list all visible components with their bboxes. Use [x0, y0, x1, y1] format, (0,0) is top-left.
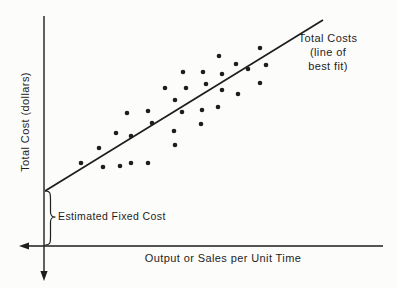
fixed-cost-label: Estimated Fixed Cost [58, 210, 166, 222]
data-point [220, 72, 225, 77]
data-point [181, 70, 186, 75]
data-point [199, 122, 204, 127]
data-point [173, 98, 178, 103]
data-point [258, 46, 263, 51]
fit-line-label-line2: (line of [299, 45, 358, 59]
scatter-figure: Total Cost (dollars) Output or Sales per… [0, 0, 397, 288]
data-point [236, 92, 241, 97]
data-point [258, 81, 263, 86]
x-axis-left-arrow-icon [19, 242, 29, 249]
data-point [146, 109, 151, 114]
data-point [184, 86, 189, 91]
data-point [79, 161, 84, 166]
data-point [246, 67, 251, 72]
y-axis-down-arrow-icon [40, 271, 47, 281]
data-point [172, 129, 177, 134]
fit-line-label: Total Costs (line of best fit) [299, 31, 358, 73]
data-point [129, 134, 134, 139]
data-point [216, 105, 221, 110]
data-point [125, 111, 130, 116]
fit-line-label-line3: best fit) [299, 59, 358, 73]
data-point [200, 108, 205, 113]
y-axis-label: Total Cost (dollars) [19, 72, 31, 172]
data-point [118, 164, 123, 169]
data-point [217, 54, 222, 59]
fixed-cost-brace [46, 191, 56, 245]
data-point [204, 82, 209, 87]
data-point [101, 165, 106, 170]
data-point [264, 63, 269, 68]
data-point [163, 86, 168, 91]
fit-line-label-line1: Total Costs [299, 31, 358, 45]
x-axis-label: Output or Sales per Unit Time [145, 252, 302, 264]
best-fit-line [45, 20, 323, 191]
data-point [173, 143, 178, 148]
data-point [146, 161, 151, 166]
data-point [234, 62, 239, 67]
data-point [220, 88, 225, 93]
data-point [114, 131, 119, 136]
data-point [180, 110, 185, 115]
data-point [150, 121, 155, 126]
data-point [97, 146, 102, 151]
data-point [129, 161, 134, 166]
data-point [201, 70, 206, 75]
